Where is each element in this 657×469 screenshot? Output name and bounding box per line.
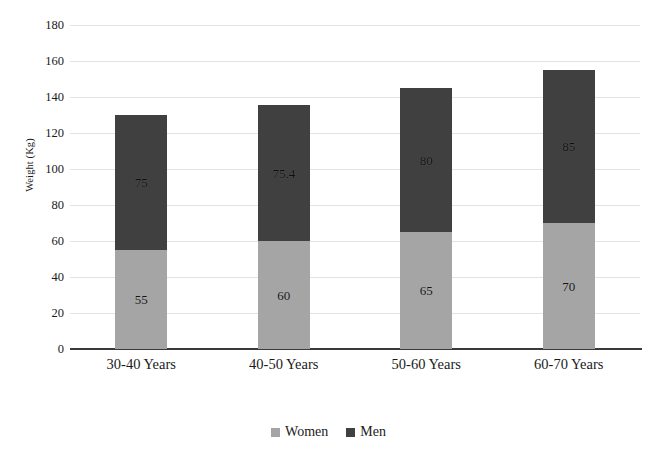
bars-layer: 55756075.465807085 xyxy=(70,25,640,349)
bar-value-label: 60 xyxy=(277,289,290,302)
bar-value-label: 75.4 xyxy=(272,167,295,180)
y-axis-tick-label: 180 xyxy=(18,19,64,32)
x-axis-category-label: 60-70 Years xyxy=(499,356,639,373)
bar-value-label: 70 xyxy=(562,280,575,293)
legend-label: Men xyxy=(360,425,386,439)
y-axis-tick-label: 60 xyxy=(18,235,64,248)
x-axis-category-label: 50-60 Years xyxy=(356,356,496,373)
y-axis-tick-label: 120 xyxy=(18,127,64,140)
bar-value-label: 55 xyxy=(135,293,148,306)
bar-segment-women[interactable]: 60 xyxy=(258,241,310,349)
bar-segment-men[interactable]: 80 xyxy=(400,88,452,232)
bar-value-label: 65 xyxy=(420,284,433,297)
bar-value-label: 75 xyxy=(135,176,148,189)
bar-group[interactable]: 6075.4 xyxy=(258,105,310,349)
chart-legend: WomenMen xyxy=(0,425,657,439)
y-axis-tick-label: 40 xyxy=(18,271,64,284)
legend-swatch-icon xyxy=(346,428,355,437)
x-axis-category-labels: 30-40 Years40-50 Years50-60 Years60-70 Y… xyxy=(70,356,640,378)
bar-segment-men[interactable]: 75 xyxy=(115,115,167,250)
x-axis-category-label: 40-50 Years xyxy=(214,356,354,373)
bar-group[interactable]: 7085 xyxy=(543,70,595,349)
legend-item[interactable]: Women xyxy=(271,425,328,439)
x-axis-category-label: 30-40 Years xyxy=(71,356,211,373)
bar-segment-women[interactable]: 65 xyxy=(400,232,452,349)
stacked-bar-chart: Weight (Kg) 180160140120100806040200 557… xyxy=(0,0,657,469)
legend-label: Women xyxy=(285,425,328,439)
bar-segment-men[interactable]: 75.4 xyxy=(258,105,310,241)
legend-swatch-icon xyxy=(271,428,280,437)
y-axis-tick-label: 140 xyxy=(18,91,64,104)
bar-group[interactable]: 5575 xyxy=(115,115,167,349)
bar-value-label: 80 xyxy=(420,154,433,167)
y-axis-tick-label: 160 xyxy=(18,55,64,68)
bar-group[interactable]: 6580 xyxy=(400,88,452,349)
bar-value-label: 85 xyxy=(562,140,575,153)
bar-segment-women[interactable]: 55 xyxy=(115,250,167,349)
bar-segment-men[interactable]: 85 xyxy=(543,70,595,223)
y-axis-tick-label: 0 xyxy=(18,343,64,356)
y-axis-tick-label: 20 xyxy=(18,307,64,320)
bar-segment-women[interactable]: 70 xyxy=(543,223,595,349)
legend-item[interactable]: Men xyxy=(346,425,386,439)
y-axis-tick-label: 80 xyxy=(18,199,64,212)
y-axis-tick-labels: 180160140120100806040200 xyxy=(14,25,64,349)
y-axis-tick-label: 100 xyxy=(18,163,64,176)
